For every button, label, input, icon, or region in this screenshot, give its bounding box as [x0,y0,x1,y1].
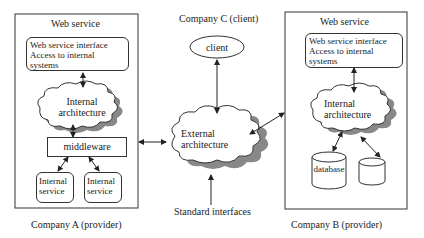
internal-service-box: Internal service [36,172,74,203]
company-b-caption: Company B (provider) [291,219,382,230]
database-label: database [311,164,347,174]
interface-line: Web service interface [30,40,125,50]
arrow-icon [361,137,380,157]
database-icon [359,158,385,185]
client-label: client [196,42,238,53]
company-a-interface-box: Web service interface Access to internal… [26,37,129,71]
internal-service-box: Internal service [84,172,122,203]
company-a-web-service-title: Web service [51,18,100,29]
cloud-label-line: architecture [181,139,228,150]
service-line: Internal [39,176,71,186]
cloud-label-line: External [181,128,228,139]
company-a-caption: Company A (provider) [31,219,122,230]
arrow-icon [58,157,68,171]
standard-interfaces-label: Standard interfaces [174,206,251,217]
cloud-label-line: Internal [54,96,110,107]
service-line: service [39,186,71,196]
company-c-caption: Company C (client) [179,13,258,24]
interface-line: systems [309,56,399,66]
interface-line: Access to internal [309,46,399,56]
interface-line: Web service interface [309,36,399,46]
arrow-icon [89,157,99,171]
arrow-icon [333,132,342,151]
service-line: Internal [87,176,119,186]
cloud-label-line: architecture [324,109,371,120]
interface-line: systems [30,60,125,70]
middleware-box: middleware [47,137,127,157]
service-line: service [87,186,119,196]
company-a-cloud-label: Internal architecture [54,96,110,118]
company-b-web-service-title: Web service [320,16,369,27]
external-cloud-label: External architecture [181,128,228,150]
interface-line: Access to internal [30,50,125,60]
cloud-label-line: Internal [324,98,371,109]
company-b-cloud-label: Internal architecture [324,98,371,120]
cloud-label-line: architecture [54,107,110,118]
company-b-interface-box: Web service interface Access to internal… [305,33,403,68]
